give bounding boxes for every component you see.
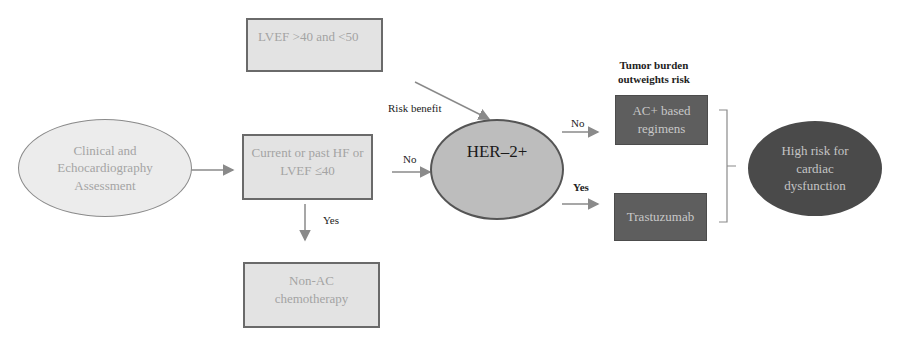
label-no-her2: No: [403, 153, 416, 165]
node-label: AC+ based regimens: [632, 102, 690, 137]
node-label: LVEF >40 and <50: [258, 28, 359, 46]
node-high-risk-cardiac: High risk for cardiac dysfunction: [748, 121, 882, 216]
label-tumor-burden: Tumor burden outweights risk: [618, 58, 690, 87]
node-non-ac-chemo: Non-AC chemotherapy: [243, 262, 380, 328]
node-label: Current or past HF or LVEF ≤40: [252, 144, 364, 179]
label-no-ac: No: [571, 117, 584, 129]
node-her2-positive: HER–2+: [430, 119, 564, 220]
node-lvef-40-50: LVEF >40 and <50: [246, 18, 383, 72]
node-label: Clinical and Echocardiography Assessment: [57, 142, 152, 195]
node-label: High risk for cardiac dysfunction: [781, 142, 848, 195]
node-label: Non-AC chemotherapy: [275, 272, 349, 307]
bracket: [719, 110, 736, 222]
label-yes-trastuzumab: Yes: [573, 181, 589, 193]
label-risk-benefit: Risk benefit: [388, 102, 441, 114]
node-ac-regimens: AC+ based regimens: [615, 95, 708, 145]
node-trastuzumab: Trastuzumab: [614, 193, 707, 241]
node-hf-lvef-40: Current or past HF or LVEF ≤40: [242, 134, 373, 200]
node-label: HER–2+: [467, 141, 528, 164]
label-yes-nonac: Yes: [323, 214, 339, 226]
node-label: Trastuzumab: [627, 208, 694, 226]
node-clinical-assessment: Clinical and Echocardiography Assessment: [18, 119, 192, 217]
